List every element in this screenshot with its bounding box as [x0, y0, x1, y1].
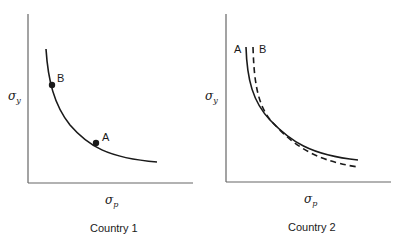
- panel-country-1: B A σy σp Country 1: [8, 14, 193, 234]
- x-axis-label: σp: [105, 193, 118, 209]
- panel-title: Country 1: [90, 222, 138, 234]
- x-axis-label: σp: [304, 192, 317, 208]
- point-b-marker: [49, 82, 55, 88]
- diagram-canvas: B A σy σp Country 1 A B σy σp Country 2: [0, 0, 397, 237]
- curve-a-solid: [246, 47, 358, 160]
- y-axis-label: σy: [8, 89, 21, 105]
- point-b-label: B: [57, 72, 64, 84]
- y-axis-label: σy: [205, 89, 218, 105]
- indifference-curve: [46, 49, 157, 162]
- curve-b-label: B: [259, 43, 266, 55]
- point-a-marker: [93, 140, 99, 146]
- curve-a-label: A: [234, 43, 242, 55]
- point-a-label: A: [102, 131, 110, 143]
- curve-b-dashed: [253, 47, 358, 167]
- panel-country-2: A B σy σp Country 2: [205, 14, 391, 233]
- panel-title: Country 2: [288, 221, 336, 233]
